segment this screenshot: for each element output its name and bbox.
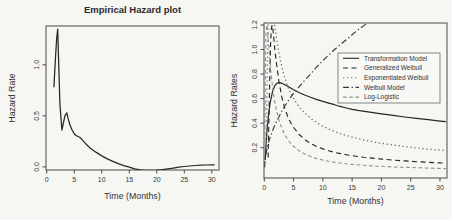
legend-label: Log-Logistic (364, 93, 400, 101)
x-tick-label: 5 (72, 176, 76, 183)
empirical-hazard-plot: Empirical Hazard plot Time (Months) Haza… (0, 0, 226, 220)
x-tick-label: 15 (348, 184, 356, 191)
x-tick-label: 30 (436, 184, 444, 191)
left-plot-title: Empirical Hazard plot (84, 4, 182, 15)
legend-label: Transformation Model (364, 55, 428, 62)
x-tick-label: 10 (98, 176, 106, 183)
x-tick-label: 10 (319, 184, 327, 191)
x-tick-label: 0 (45, 176, 49, 183)
y-tick-label: 1.0 (251, 45, 258, 55)
y-tick-label: 1.0 (33, 60, 40, 70)
series-empirical-hazard-line (54, 29, 215, 170)
x-tick-label: 30 (208, 176, 216, 183)
legend-label: Weibull Model (364, 84, 405, 91)
left-plot-ylabel: Hazard Rate (7, 73, 17, 122)
x-tick-label: 20 (153, 176, 161, 183)
y-tick-label: 0.4 (251, 118, 258, 128)
y-tick-label: 1.2 (251, 20, 258, 30)
y-tick-label: 0.5 (33, 111, 40, 121)
x-tick-label: 5 (292, 184, 296, 191)
legend-label: Exponentiated Weibull (364, 74, 429, 82)
x-tick-label: 25 (407, 184, 415, 191)
y-tick-label: 0.2 (251, 143, 258, 153)
x-tick-label: 0 (262, 184, 266, 191)
right-plot-xlabel: Time (Months) (327, 196, 383, 206)
hazard-plots-figure: Empirical Hazard plot Time (Months) Haza… (0, 0, 452, 220)
x-tick-label: 15 (125, 176, 133, 183)
left-plot-xlabel: Time (Months) (104, 191, 160, 201)
y-tick-label: 0.6 (251, 94, 258, 104)
right-plot-ylabel: Hazard Rates (229, 73, 239, 127)
y-tick-label: 0.8 (251, 69, 258, 79)
x-tick-label: 25 (180, 176, 188, 183)
x-tick-label: 20 (378, 184, 386, 191)
fitted-hazards-plot: Time (Months) Hazard Rates 0510152025300… (226, 0, 452, 220)
plot-box (46, 26, 219, 170)
y-tick-label: 0.0 (33, 162, 40, 172)
legend-label: Generalized Weibull (364, 64, 423, 71)
